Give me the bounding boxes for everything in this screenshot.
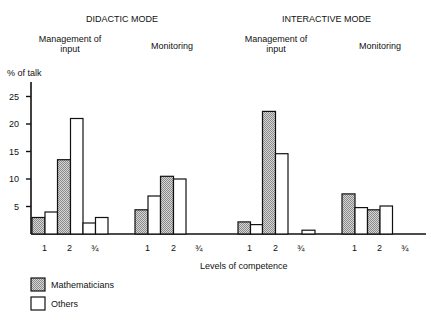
bar-didactic-mgmt-l34-a: [83, 223, 96, 234]
bar-didactic-mon-l1-others: [148, 196, 161, 234]
bar-interactive-mgmt-l1-others: [251, 225, 263, 234]
bars: [32, 111, 393, 234]
bar-interactive-mon-l2-others: [380, 206, 393, 234]
bar-didactic-mon-l1-math: [135, 210, 148, 234]
legend-label-others: Others: [51, 299, 78, 309]
x-tick-g1-2: 2: [67, 243, 72, 253]
x-tick-g3-34: ¾: [297, 243, 305, 253]
bar-didactic-mon-l2-others: [174, 179, 187, 234]
bar-interactive-mon-l1-math: [342, 194, 355, 234]
x-tick-g1-1: 1: [42, 243, 47, 253]
bar-interactive-mon-l1-others: [355, 208, 368, 234]
x-tick-g4-2: 2: [377, 243, 382, 253]
legend-swatch-others: [31, 297, 45, 310]
bar-interactive-mgmt-l34-others: [302, 230, 315, 234]
bar-didactic-mgmt-l34-b: [96, 218, 109, 235]
x-axis-label: Levels of competence: [200, 261, 288, 271]
bar-interactive-mgmt-l2-math: [263, 111, 276, 234]
x-tick-g1-34: ¾: [91, 243, 99, 253]
bar-interactive-mgmt-l2-others: [276, 154, 289, 234]
x-tick-g4-34: ¾: [401, 243, 409, 253]
bar-didactic-mon-l2-math: [161, 176, 174, 234]
legend-swatch-mathematicians: [31, 278, 45, 291]
bar-didactic-mgmt-l2-math: [58, 160, 71, 234]
bar-didactic-mgmt-l2-others: [71, 119, 84, 235]
bar-interactive-mgmt-l1-math: [238, 222, 251, 234]
bar-didactic-mgmt-l1-others: [45, 212, 58, 234]
x-tick-g4-1: 1: [352, 243, 357, 253]
x-tick-g2-2: 2: [171, 243, 176, 253]
bar-didactic-mgmt-l1-math: [32, 218, 45, 235]
bar-chart: [0, 0, 431, 321]
x-tick-g3-2: 2: [273, 243, 278, 253]
legend-label-mathematicians: Mathematicians: [51, 280, 114, 290]
bar-interactive-mon-l2-math: [368, 210, 381, 234]
x-tick-g2-1: 1: [145, 243, 150, 253]
x-tick-g2-34: ¾: [195, 243, 203, 253]
x-tick-g3-1: 1: [247, 243, 252, 253]
